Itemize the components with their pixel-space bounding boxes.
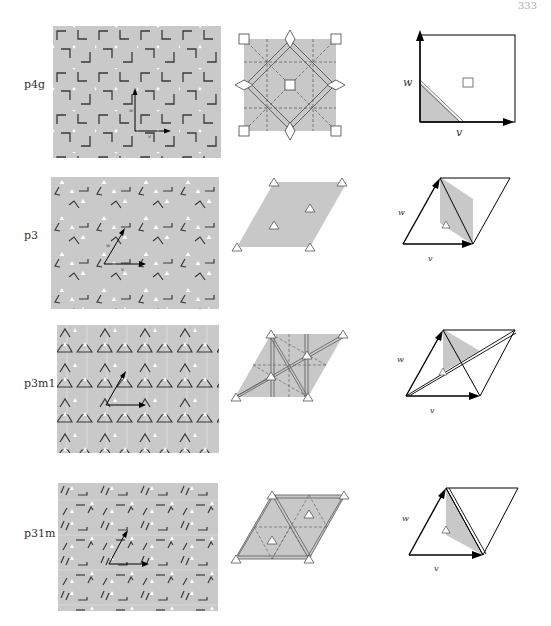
group-label: p3 [24, 229, 38, 242]
unit-cell-p3m1 [233, 329, 348, 409]
unit-cell-p3 [232, 178, 347, 253]
vector-w-label: w [398, 208, 405, 217]
vector-w-label: w [397, 355, 404, 364]
fundamental-domain-p3m1: w v [405, 329, 525, 429]
svg-text:v: v [148, 133, 151, 139]
unit-cell-p31m [232, 490, 347, 570]
svg-text:w: w [106, 242, 111, 248]
vector-v-label: v [434, 564, 439, 573]
vector-v-label: v [456, 126, 463, 139]
svg-text:v: v [121, 266, 124, 272]
wallpaper-pattern-p4g: w v [53, 26, 221, 158]
row-p3m1: p3m1 [0, 315, 551, 465]
vector-v-label: v [430, 406, 435, 415]
wallpaper-pattern-p3m1 [57, 325, 219, 453]
vector-w-label: w [403, 76, 413, 89]
fundamental-domain-p3: w v [398, 177, 528, 277]
row-p4g: p4g w v [0, 0, 551, 165]
wallpaper-pattern-p31m [58, 483, 218, 611]
row-p3: p3 w v [0, 165, 551, 315]
row-p31m: p31m [0, 465, 551, 626]
svg-text:w: w [129, 107, 134, 113]
vector-w-label: w [402, 514, 409, 523]
vector-v-label: v [428, 254, 433, 263]
group-label: p3m1 [24, 377, 55, 390]
wallpaper-pattern-p3: w v [51, 177, 219, 309]
group-label: p4g [24, 78, 45, 91]
group-label: p31m [24, 527, 55, 540]
fundamental-domain-p31m: w v [408, 487, 528, 587]
unit-cell-p4g [235, 30, 345, 140]
fundamental-domain-p4g: w v [398, 30, 518, 140]
